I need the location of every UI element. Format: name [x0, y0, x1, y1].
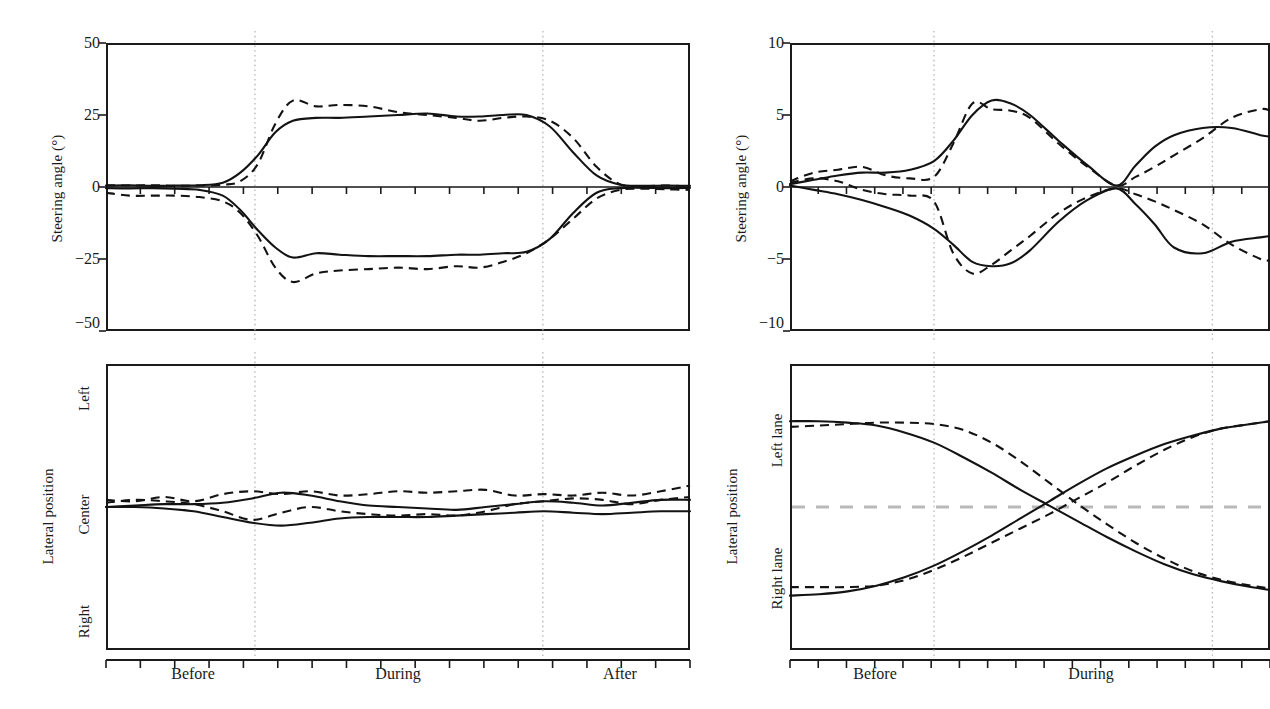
panel-br-xtick-during: During [1048, 665, 1134, 683]
series-path-0 [790, 421, 1270, 590]
panel-br-xtick-before: Before [832, 665, 918, 683]
series-path-2 [790, 421, 1270, 595]
series-path-3 [790, 421, 1270, 587]
series-path-1 [790, 422, 1270, 588]
